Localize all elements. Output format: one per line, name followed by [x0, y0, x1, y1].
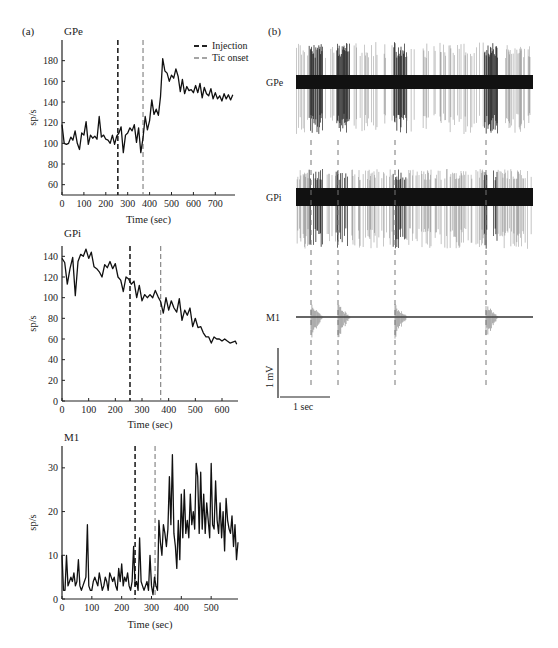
- x-axis-label: Time (sec): [126, 214, 171, 226]
- y-tick-label: 10: [48, 550, 58, 561]
- raw-traces: [296, 42, 533, 385]
- legend-injection-label: Injection: [212, 40, 248, 51]
- x-tick-label: 600: [186, 198, 201, 209]
- chart-m1: M101020300100200300400500Time (sec)sp/s: [27, 431, 238, 631]
- raw-trace-gpe: [296, 42, 533, 134]
- scale-bar: 1 mV 1 sec: [264, 348, 330, 412]
- y-tick-label: 120: [43, 117, 58, 128]
- scale-bar-vertical-label: 1 mV: [264, 365, 275, 388]
- x-tick-label: 300: [120, 198, 135, 209]
- x-tick-label: 300: [144, 602, 159, 613]
- y-tick-label: 0: [53, 396, 58, 407]
- x-tick-label: 0: [60, 404, 65, 415]
- data-line: [62, 249, 237, 344]
- chart-title: GPe: [64, 25, 83, 37]
- x-tick-label: 500: [204, 602, 219, 613]
- x-tick-label: 400: [161, 404, 176, 415]
- x-axis-label: Time (sec): [128, 619, 173, 631]
- x-tick-label: 700: [208, 198, 223, 209]
- x-tick-label: 500: [164, 198, 179, 209]
- scale-bar-horizontal-label: 1 sec: [293, 401, 314, 412]
- x-tick-label: 0: [60, 602, 65, 613]
- y-axis-label: sp/s: [27, 109, 38, 125]
- raw-trace-m1: [296, 304, 533, 339]
- figure-canvas: (a) (b) GPe60801001201401601800100200300…: [0, 0, 558, 648]
- x-tick-label: 200: [98, 198, 113, 209]
- x-tick-label: 100: [76, 198, 91, 209]
- figure: (a) (b) GPe60801001201401601800100200300…: [0, 0, 558, 648]
- y-tick-label: 180: [43, 55, 58, 66]
- x-tick-label: 200: [108, 404, 123, 415]
- y-tick-label: 20: [48, 506, 58, 517]
- y-tick-label: 0: [53, 594, 58, 605]
- y-tick-label: 100: [43, 292, 58, 303]
- y-tick-label: 40: [48, 354, 58, 365]
- raw-trace-gpi: [296, 169, 533, 249]
- data-line: [62, 59, 233, 153]
- x-axis-label: Time (sec): [128, 419, 173, 431]
- raw-label-gpe: GPe: [266, 77, 284, 88]
- x-tick-label: 300: [135, 404, 150, 415]
- legend: Injection Tic onset: [194, 40, 249, 63]
- y-tick-label: 60: [48, 334, 58, 345]
- y-axis-label: sp/s: [27, 315, 38, 331]
- y-tick-label: 140: [43, 251, 58, 262]
- panel-label-a: (a): [22, 25, 35, 38]
- y-tick-label: 120: [43, 272, 58, 283]
- y-tick-label: 80: [48, 159, 58, 170]
- y-tick-label: 60: [48, 179, 58, 190]
- raw-label-m1: M1: [266, 312, 280, 323]
- x-tick-label: 500: [188, 404, 203, 415]
- raw-label-gpi: GPi: [266, 192, 282, 203]
- y-tick-label: 30: [48, 462, 58, 473]
- y-tick-label: 140: [43, 97, 58, 108]
- y-axis-label: sp/s: [27, 514, 38, 530]
- panel-label-b: (b): [268, 25, 281, 38]
- x-tick-label: 0: [60, 198, 65, 209]
- y-tick-label: 20: [48, 375, 58, 386]
- x-tick-label: 400: [142, 198, 157, 209]
- legend-tic-onset-label: Tic onset: [212, 52, 249, 63]
- data-line: [62, 455, 238, 595]
- y-tick-label: 160: [43, 76, 58, 87]
- chart-title: M1: [64, 431, 79, 443]
- chart-title: GPi: [64, 227, 81, 239]
- chart-gpi: GPi0204060801001201400100200300400500600…: [27, 227, 238, 431]
- chart-gpe: GPe6080100120140160180010020030040050060…: [27, 25, 235, 226]
- x-tick-label: 100: [81, 404, 96, 415]
- x-tick-label: 100: [84, 602, 99, 613]
- x-tick-label: 600: [215, 404, 230, 415]
- x-tick-label: 200: [114, 602, 129, 613]
- y-tick-label: 100: [43, 138, 58, 149]
- x-tick-label: 400: [174, 602, 189, 613]
- y-tick-label: 80: [48, 313, 58, 324]
